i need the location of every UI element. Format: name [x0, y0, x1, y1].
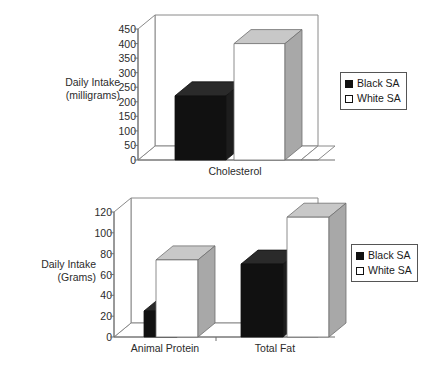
- legend-top: Black SA White SA: [340, 72, 407, 110]
- legend-item-black-sa[interactable]: Black SA: [345, 76, 401, 91]
- legend-item-black-sa-bottom[interactable]: Black SA: [356, 248, 412, 263]
- bar-animal-protein-white-sa: [156, 246, 215, 337]
- legend-swatch-black-icon: [356, 252, 364, 260]
- bar-total-fat-white-sa: [287, 203, 346, 337]
- legend-label-white-sa: White SA: [357, 91, 401, 106]
- category-label-total-fat: Total Fat: [220, 342, 330, 354]
- category-label-animal-protein: Animal Protein: [110, 342, 220, 354]
- legend-swatch-white-icon: [345, 95, 353, 103]
- legend-label-black-sa-bottom: Black SA: [368, 248, 411, 263]
- protein-fat-chart: Daily Intake (Grams) 020406080100120: [0, 186, 430, 372]
- category-label-cholesterol: Cholesterol: [155, 165, 315, 177]
- legend-swatch-black-icon: [345, 80, 353, 88]
- legend-swatch-white-icon: [356, 267, 364, 275]
- figure-container: Daily Intake (milligrams) 05010015020025…: [0, 0, 430, 372]
- legend-bottom: Black SA White SA: [351, 244, 418, 282]
- legend-label-black-sa: Black SA: [357, 76, 400, 91]
- bar-cholesterol-black-sa: [175, 82, 243, 160]
- bar-cholesterol-white-sa: [234, 30, 302, 160]
- legend-item-white-sa[interactable]: White SA: [345, 91, 401, 106]
- legend-item-white-sa-bottom[interactable]: White SA: [356, 263, 412, 278]
- cholesterol-chart: Daily Intake (milligrams) 05010015020025…: [0, 0, 430, 186]
- legend-label-white-sa-bottom: White SA: [368, 263, 412, 278]
